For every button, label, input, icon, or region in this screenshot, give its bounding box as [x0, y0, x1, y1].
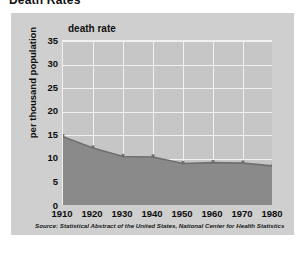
- data-point-marker: [152, 154, 155, 157]
- x-axis-tick-label: 1970: [225, 209, 259, 219]
- y-axis-tick-label: 5: [34, 177, 58, 186]
- x-axis-tick-label: 1910: [45, 209, 79, 219]
- data-point-marker: [92, 145, 95, 148]
- page-title: Death Rates: [9, 0, 81, 7]
- x-axis-tick-label: 1960: [195, 209, 229, 219]
- y-axis-tick-label: 20: [34, 106, 58, 115]
- data-point-marker: [182, 161, 185, 164]
- x-axis-tick-label: 1920: [75, 209, 109, 219]
- y-axis-tick-label: 10: [34, 153, 58, 162]
- x-axis-tick-label: 1950: [165, 209, 199, 219]
- y-axis-tick-label: 15: [34, 130, 58, 139]
- source-note: Source: Statistical Abstract of the Unit…: [35, 222, 284, 229]
- y-axis-tick-label: 35: [34, 36, 58, 45]
- chart-title: death rate: [68, 23, 116, 34]
- x-axis-tick-label: 1980: [255, 209, 289, 219]
- plot-area: [62, 40, 272, 205]
- x-axis-tick-label: 1930: [105, 209, 139, 219]
- data-point-marker: [122, 154, 125, 157]
- y-axis-tick-label: 30: [34, 59, 58, 68]
- death-rate-area-series: [63, 41, 272, 205]
- data-point-marker: [242, 161, 245, 164]
- y-axis-tick-label: 25: [34, 83, 58, 92]
- chart-figure-panel: death rate per thousand population Sourc…: [11, 13, 294, 235]
- data-point-marker: [212, 160, 215, 163]
- data-point-marker: [63, 134, 64, 137]
- x-axis-tick-label: 1940: [135, 209, 169, 219]
